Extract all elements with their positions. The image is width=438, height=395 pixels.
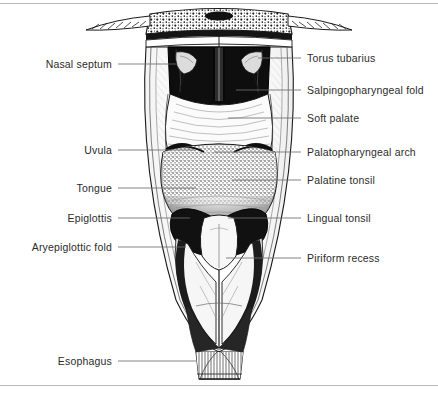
label-palatopharyngeal-arch: Palatopharyngeal arch <box>307 147 416 158</box>
label-lingual-tonsil: Lingual tonsil <box>307 213 371 224</box>
label-palatine-tonsil: Palatine tonsil <box>307 175 375 186</box>
label-tongue: Tongue <box>76 183 112 194</box>
lingual-tonsil-stipple <box>163 146 277 204</box>
label-piriform-recess: Piriform recess <box>307 253 380 264</box>
label-nasal-septum: Nasal septum <box>46 59 112 70</box>
label-torus-tubarius: Torus tubarius <box>307 53 375 64</box>
label-esophagus: Esophagus <box>58 356 112 367</box>
skull-base <box>86 9 352 48</box>
label-epiglottis: Epiglottis <box>68 213 112 224</box>
nasal-septum-structure <box>214 47 224 101</box>
label-uvula: Uvula <box>84 145 112 156</box>
nasopharynx-cavity <box>168 47 270 105</box>
label-soft-palate: Soft palate <box>307 113 359 124</box>
label-salpingopharyngeal-fold: Salpingopharyngeal fold <box>307 85 424 96</box>
label-aryepiglottic-fold: Aryepiglottic fold <box>32 242 112 253</box>
illustration-page: Nasal septumUvulaTongueEpiglottisAryepig… <box>0 0 438 395</box>
